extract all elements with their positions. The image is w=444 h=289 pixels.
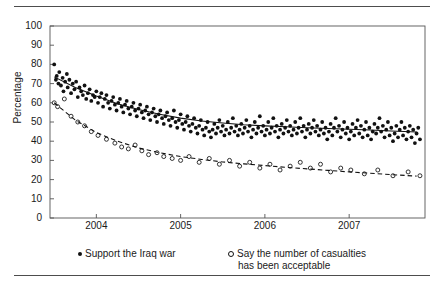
data-point — [325, 137, 329, 141]
data-point — [61, 76, 65, 80]
data-point — [315, 124, 319, 128]
data-point — [383, 135, 387, 139]
data-point — [278, 128, 282, 132]
data-point — [211, 128, 215, 132]
data-point — [356, 118, 360, 122]
data-point — [187, 124, 191, 128]
data-point — [162, 155, 166, 159]
data-point — [145, 105, 149, 109]
data-point — [147, 153, 151, 157]
data-point — [271, 116, 275, 120]
data-point — [290, 134, 294, 138]
legend-label-support: Support the Iraq war — [85, 248, 176, 259]
data-point — [406, 170, 410, 174]
data-point — [175, 126, 179, 130]
data-point — [219, 130, 223, 134]
data-point — [364, 120, 368, 124]
data-point — [202, 134, 206, 138]
data-point — [120, 145, 124, 149]
data-point — [339, 166, 343, 170]
data-point — [153, 114, 157, 118]
data-point — [189, 130, 193, 134]
data-point — [135, 114, 139, 118]
data-point — [125, 99, 129, 103]
data-point — [115, 109, 119, 113]
data-point — [238, 164, 242, 168]
data-point — [292, 128, 296, 132]
data-point — [172, 109, 176, 113]
data-point — [106, 101, 110, 105]
y-tick-label: 100 — [16, 21, 42, 31]
data-point — [228, 132, 232, 136]
data-point — [319, 162, 323, 166]
data-point — [374, 132, 378, 136]
data-point — [418, 174, 422, 178]
x-tick-label: 2007 — [329, 221, 369, 231]
data-point — [167, 118, 171, 122]
y-tick-label: 20 — [16, 175, 42, 185]
data-point — [243, 126, 247, 130]
data-point — [236, 134, 240, 138]
data-point — [298, 160, 302, 164]
data-point — [282, 132, 286, 136]
data-point — [89, 99, 93, 103]
data-point — [197, 124, 201, 128]
data-point — [224, 128, 228, 132]
data-point — [341, 128, 345, 132]
data-point — [400, 120, 404, 124]
data-point — [401, 134, 405, 138]
data-point — [285, 118, 289, 122]
data-point — [223, 134, 227, 138]
data-point — [327, 130, 331, 134]
data-point — [337, 124, 341, 128]
data-point — [84, 97, 88, 101]
data-point — [405, 137, 409, 141]
data-point — [393, 132, 397, 136]
data-point — [361, 135, 365, 139]
y-tick-label: 90 — [16, 40, 42, 50]
data-point — [410, 135, 414, 139]
data-point — [62, 97, 66, 101]
y-tick-label: 30 — [16, 155, 42, 165]
data-point — [162, 122, 166, 126]
data-point — [197, 160, 201, 164]
data-point — [69, 91, 73, 95]
data-point — [100, 91, 104, 95]
data-point — [335, 130, 339, 134]
data-point — [258, 166, 262, 170]
x-axis-tick-labels: 2004200520062007 — [0, 221, 444, 235]
data-point — [287, 130, 291, 134]
data-point — [217, 162, 221, 166]
data-point — [105, 93, 109, 97]
data-point — [81, 93, 85, 97]
data-point — [229, 126, 233, 130]
data-point — [391, 139, 395, 143]
data-point — [185, 114, 189, 118]
data-point — [182, 128, 186, 132]
data-point — [101, 105, 105, 109]
data-point — [104, 137, 108, 141]
data-point — [194, 126, 198, 130]
data-point — [201, 128, 205, 132]
data-point — [179, 112, 183, 116]
data-point — [233, 130, 237, 134]
y-tick-label: 70 — [16, 79, 42, 89]
data-point — [388, 134, 392, 138]
data-point — [308, 132, 312, 136]
data-point — [366, 134, 370, 138]
data-point — [255, 132, 259, 136]
data-point — [357, 132, 361, 136]
data-point — [339, 135, 343, 139]
data-point — [300, 130, 304, 134]
data-point — [67, 78, 71, 82]
legend-label-casualties-line2: has been acceptable — [238, 260, 428, 272]
data-point — [276, 135, 280, 139]
data-point — [155, 120, 159, 124]
y-tick-label: 50 — [16, 117, 42, 127]
data-point — [207, 130, 211, 134]
data-point — [132, 101, 136, 105]
data-point — [263, 134, 267, 138]
data-point — [278, 168, 282, 172]
data-point — [253, 120, 257, 124]
data-point — [386, 120, 390, 124]
